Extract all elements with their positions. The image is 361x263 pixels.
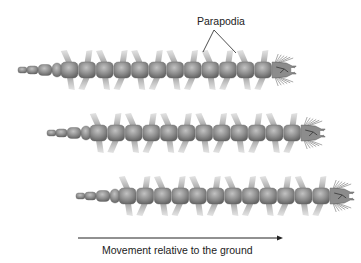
diagram-canvas bbox=[0, 0, 361, 263]
body-segment bbox=[149, 62, 166, 78]
tail-segment bbox=[67, 128, 81, 139]
body-segment bbox=[196, 125, 213, 141]
body-segment bbox=[189, 188, 206, 204]
worm-2 bbox=[47, 113, 325, 153]
tail-segment bbox=[18, 67, 27, 73]
parapodia-label: Parapodia bbox=[197, 15, 245, 27]
head bbox=[330, 180, 354, 212]
body-segment bbox=[154, 188, 171, 204]
body-segment bbox=[277, 188, 294, 204]
movement-arrow bbox=[78, 236, 283, 241]
body-segment bbox=[79, 62, 96, 78]
worms-group bbox=[18, 50, 354, 216]
body-segment bbox=[114, 62, 131, 78]
body-segment bbox=[295, 188, 312, 204]
body-segment bbox=[96, 62, 113, 78]
tail-segment bbox=[52, 63, 62, 77]
body-segment bbox=[119, 188, 136, 204]
tail-segment bbox=[27, 66, 38, 74]
tail-segment bbox=[47, 130, 56, 136]
body-segment bbox=[255, 62, 272, 78]
body-segment bbox=[125, 125, 142, 141]
tail-segment bbox=[96, 191, 110, 202]
parapodia-callout-lines bbox=[203, 30, 236, 53]
tail-segment bbox=[76, 193, 85, 199]
body-segment bbox=[284, 125, 301, 141]
body-segment bbox=[248, 125, 265, 141]
body-segment bbox=[266, 125, 283, 141]
tail-segment bbox=[81, 126, 91, 140]
arrowhead-icon bbox=[277, 236, 283, 241]
body-segment bbox=[143, 125, 160, 141]
body-segment bbox=[237, 62, 254, 78]
worm-1 bbox=[18, 50, 296, 90]
head bbox=[301, 117, 325, 149]
body-segment bbox=[260, 188, 277, 204]
tail-segment bbox=[38, 65, 52, 76]
body-segment bbox=[219, 62, 236, 78]
body-segment bbox=[202, 62, 219, 78]
body-segment bbox=[160, 125, 177, 141]
body-segment bbox=[167, 62, 184, 78]
body-segment bbox=[90, 125, 107, 141]
body-segment bbox=[172, 188, 189, 204]
body-segment bbox=[61, 62, 78, 78]
tail-segment bbox=[56, 129, 67, 137]
head bbox=[272, 54, 296, 86]
body-segment bbox=[184, 62, 201, 78]
body-segment bbox=[178, 125, 195, 141]
body-segment bbox=[131, 62, 148, 78]
body-segment bbox=[313, 188, 330, 204]
body-segment bbox=[231, 125, 248, 141]
tail-segment bbox=[110, 189, 120, 203]
body-segment bbox=[108, 125, 125, 141]
body-segment bbox=[242, 188, 259, 204]
body-segment bbox=[207, 188, 224, 204]
movement-caption: Movement relative to the ground bbox=[102, 244, 253, 256]
tail-segment bbox=[85, 192, 96, 200]
body-segment bbox=[225, 188, 242, 204]
body-segment bbox=[137, 188, 154, 204]
worm-3 bbox=[76, 176, 354, 216]
body-segment bbox=[213, 125, 230, 141]
